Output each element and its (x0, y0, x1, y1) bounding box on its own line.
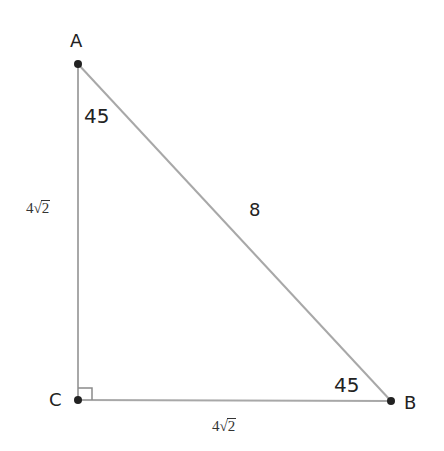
vertex-b-label: B (404, 394, 416, 412)
side-ab-label: 8 (249, 201, 260, 219)
vertex-c-label: C (49, 391, 62, 409)
side-cb-coef: 4 (212, 418, 220, 434)
triangle-canvas (0, 0, 444, 451)
side-cb-label: 4√2 (212, 418, 236, 434)
side-cb-radicand: 2 (227, 418, 237, 434)
side-ab (78, 64, 391, 401)
vertex-a-point (74, 60, 82, 68)
vertex-b-point (387, 397, 395, 405)
vertex-a-label: A (70, 32, 82, 50)
side-ac-radicand: 2 (41, 200, 51, 216)
side-cb (78, 400, 391, 401)
triangle-diagram: A C B 45 45 8 4√2 4√2 (0, 0, 444, 451)
sqrt-symbol: √2 (34, 200, 51, 216)
vertex-c-point (74, 396, 82, 404)
angle-a-label: 45 (84, 106, 109, 126)
side-ac-coef: 4 (26, 200, 34, 216)
angle-b-label: 45 (334, 375, 359, 395)
sqrt-symbol: √2 (220, 418, 237, 434)
side-ac-label: 4√2 (26, 200, 50, 216)
